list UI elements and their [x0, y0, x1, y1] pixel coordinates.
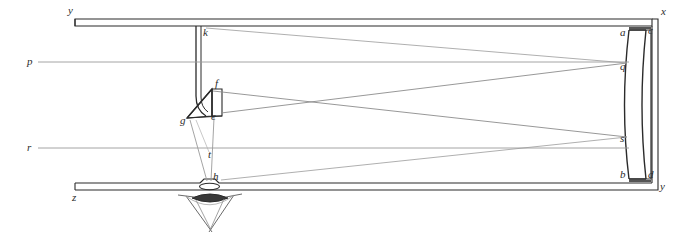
primary-mirror — [625, 28, 652, 181]
eyepiece-lens-assembly — [178, 194, 242, 232]
tube-bottom-wall — [75, 183, 652, 190]
label-c-mirror-top-back: c — [648, 24, 653, 36]
label-r-ray: r — [27, 141, 32, 153]
label-g-prism-left: g — [180, 114, 186, 126]
label-a-mirror-top-front: a — [620, 26, 626, 38]
label-y-top-left: y — [67, 4, 73, 16]
diagonal-prism — [187, 89, 222, 118]
reflected-rays — [206, 28, 627, 180]
label-s-mirror-lower: s — [620, 132, 624, 144]
tube-top-wall — [75, 19, 652, 26]
label-t-focus: t — [208, 148, 212, 160]
label-q-mirror-upper: q — [620, 60, 626, 72]
telescope-diagram: y z x y p r k f g e t h a b c d q s — [0, 0, 697, 237]
label-f-prism-top: f — [215, 77, 220, 89]
prism-support-strut — [196, 26, 208, 116]
label-y-bottom-right: y — [659, 180, 665, 192]
label-p-ray: p — [26, 55, 33, 67]
mirror-cell-frame — [652, 19, 658, 190]
diagram-canvas: y z x y p r k f g e t h a b c d q s — [0, 0, 697, 237]
label-h-aperture: h — [213, 170, 219, 182]
label-d-mirror-bottom-back: d — [648, 168, 654, 180]
label-e-prism-right: e — [211, 110, 216, 122]
label-z-bottom-left: z — [71, 191, 77, 203]
label-b-mirror-bottom-front: b — [620, 168, 626, 180]
label-x-top-right: x — [660, 5, 666, 17]
